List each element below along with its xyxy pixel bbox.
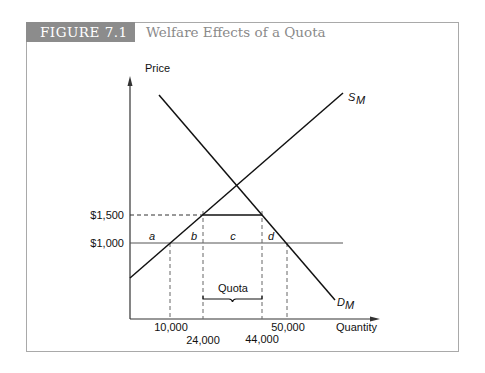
qty-tick-50000: 50,000 [271,321,305,333]
area-b-label: b [191,230,197,242]
price-tick-1000: $1,000 [90,237,124,249]
supply-subscript: M [356,94,366,106]
area-a-label: a [149,230,155,242]
qty-tick-24000: 24,000 [186,334,220,346]
supply-label: S [348,91,356,103]
y-axis-arrow-icon [128,76,133,86]
y-axis-label: Price [145,62,170,74]
quota-diagram: Price Quantity $1,500 $1,000 10,000 24,0… [0,0,485,373]
qty-tick-44000: 44,000 [245,333,279,345]
quota-label: Quota [218,282,249,294]
demand-label: D [337,296,345,308]
demand-curve [159,95,335,300]
price-tick-1500: $1,500 [90,209,124,221]
qty-tick-10000: 10,000 [154,321,188,333]
x-axis-label: Quantity [336,321,377,333]
quota-brace [203,296,262,302]
area-d-label: d [268,230,275,242]
demand-subscript: M [345,299,355,311]
area-c-label: c [230,230,236,242]
